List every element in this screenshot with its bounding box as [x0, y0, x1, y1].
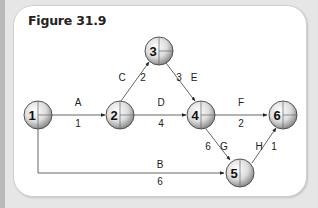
label-D-duration: 4	[158, 118, 164, 129]
network-diagram: A 1 B 6 C 2 D 4 3 E F 2 6 G H 1 1 2 3	[0, 0, 318, 208]
edge-B	[38, 129, 224, 173]
label-B-duration: 6	[157, 176, 163, 187]
node-5-label: 5	[230, 166, 237, 181]
node-4: 4	[187, 101, 215, 129]
label-A-duration: 1	[75, 118, 81, 129]
label-E-duration: 3	[176, 72, 182, 83]
node-1-label: 1	[28, 108, 35, 123]
label-G-name: G	[220, 141, 228, 152]
label-F-name: F	[238, 97, 244, 108]
node-6: 6	[269, 101, 297, 129]
label-F-duration: 2	[238, 118, 244, 129]
node-6-label: 6	[273, 108, 280, 123]
label-G-duration: 6	[205, 141, 211, 152]
label-C-name: C	[118, 72, 125, 83]
label-C-duration: 2	[140, 72, 146, 83]
label-H-duration: 1	[271, 141, 277, 152]
label-D-name: D	[157, 97, 164, 108]
node-4-label: 4	[191, 108, 199, 123]
node-3: 3	[145, 37, 173, 65]
label-H-name: H	[255, 141, 262, 152]
node-1: 1	[24, 101, 52, 129]
label-A-name: A	[75, 97, 82, 108]
node-5: 5	[226, 159, 254, 187]
node-2: 2	[106, 101, 134, 129]
label-B-name: B	[157, 159, 164, 170]
node-2-label: 2	[110, 108, 117, 123]
node-3-label: 3	[149, 44, 156, 59]
label-E-name: E	[191, 72, 198, 83]
